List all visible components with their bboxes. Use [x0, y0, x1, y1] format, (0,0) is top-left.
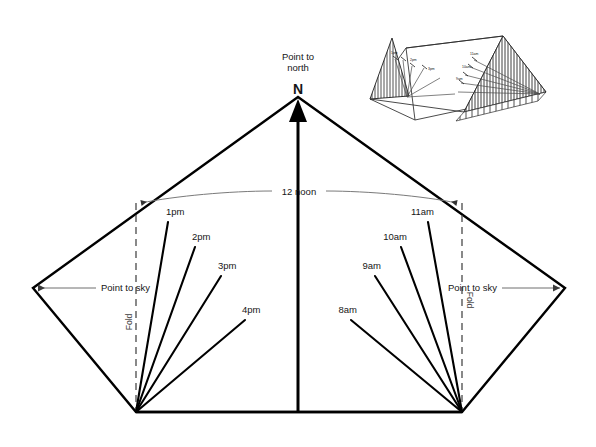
fold-label-right: Fold	[465, 292, 475, 309]
inset-label-3pm: 3pm	[428, 67, 435, 71]
north-arrow-group	[289, 99, 307, 412]
point-to-sky-right-group: Point to sky	[448, 282, 560, 293]
point-to-north-label-group: Point to north N	[282, 51, 314, 97]
point-to-north-label-line1: Point to	[282, 51, 314, 62]
hour-line-1pm	[136, 222, 168, 412]
point-to-sky-left-label: Point to sky	[101, 282, 150, 293]
inset-label-9am: 9am	[456, 77, 463, 81]
point-to-sky-left-group: Point to sky	[38, 282, 150, 293]
inset-label-10am: 10am	[462, 65, 471, 69]
hour-label-1pm: 1pm	[166, 206, 185, 217]
hour-label-4pm: 4pm	[242, 304, 261, 315]
hour-label-9am: 9am	[363, 260, 382, 271]
afternoon-hour-lines-group	[136, 222, 245, 412]
assembled-sundial-inset: 1pm 2pm 3pm 11am 10am 9am	[370, 20, 546, 130]
afternoon-hour-labels-group: 1pm 2pm 3pm 4pm	[166, 206, 261, 315]
hour-label-8am: 8am	[339, 304, 358, 315]
hour-label-10am: 10am	[383, 231, 407, 242]
inset-label-11am: 11am	[470, 52, 478, 56]
hour-label-3pm: 3pm	[218, 260, 237, 271]
point-to-north-label-line2: north	[287, 62, 309, 73]
inset-label-1pm: 1pm	[391, 51, 398, 55]
hour-label-11am: 11am	[411, 206, 434, 217]
fold-label-left: Fold	[124, 313, 134, 330]
sundial-diagram: 1pm 2pm 3pm 4pm 11am 10am 9am 8am 12 noo…	[0, 0, 596, 447]
morning-hour-lines-group	[351, 222, 462, 412]
hour-label-2pm: 2pm	[192, 231, 211, 242]
hour-line-3pm	[136, 276, 221, 412]
noon-label: 12 noon	[282, 186, 316, 197]
north-compass-glyph: N	[293, 81, 303, 97]
inset-label-2pm: 2pm	[410, 58, 417, 62]
